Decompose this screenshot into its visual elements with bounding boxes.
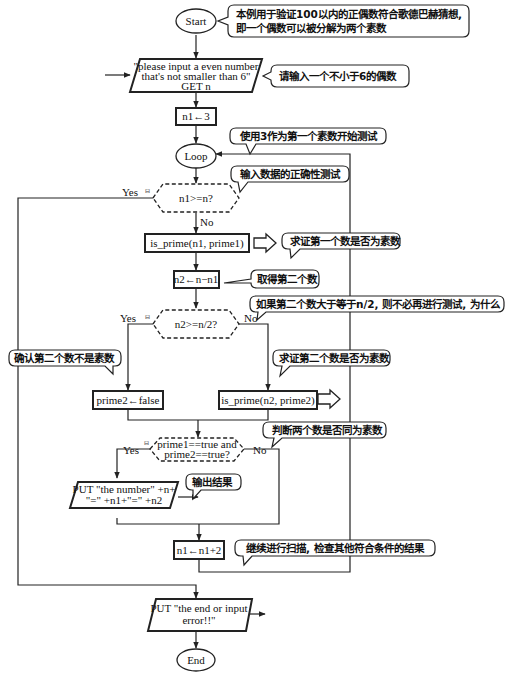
collapse-icon[interactable]: ⊟ bbox=[145, 187, 150, 194]
is-prime1-text: is_prime(n1, prime1) bbox=[150, 237, 244, 250]
comment-bubble-output: 输出结果 bbox=[186, 474, 241, 499]
decision-input-check[interactable]: n1>=n? bbox=[153, 184, 239, 212]
comment-text: 求证第二个数是否为素数 bbox=[279, 352, 390, 364]
hollow-arrow-icon bbox=[254, 234, 276, 252]
comment-text: 求证第一个数是否为素数 bbox=[290, 235, 401, 247]
init-text: n1←3 bbox=[182, 110, 210, 122]
is-prime1-process[interactable]: is_prime(n1, prime1) bbox=[145, 234, 249, 252]
is-prime2-text: is_prime(n2, prime2) bbox=[221, 394, 315, 407]
comment-bubble-prime1: 求证第一个数是否为素数 bbox=[282, 233, 401, 258]
comment-bubble-validate: 输入数据的正确性测试 bbox=[231, 166, 349, 192]
yes-label: Yes bbox=[120, 312, 136, 324]
decision3-text-line2: prime2==true? bbox=[164, 448, 230, 460]
comment-bubble-second: 取得第二个数 bbox=[224, 270, 319, 288]
output-result-box[interactable]: PUT "the number" +n+ "=" +n1+"=" +n2 bbox=[70, 482, 178, 508]
init-process[interactable]: n1←3 bbox=[176, 108, 216, 125]
loop-terminal[interactable]: Loop bbox=[176, 144, 216, 168]
comment-bubble-purpose: 本例用于验证100以内的正偶数符合歌德巴赫猜想, 即一个偶数可以被分解为两个素数 bbox=[218, 5, 469, 37]
connector-no bbox=[239, 324, 268, 390]
comment-bubble-not-prime: 确认第二个数不是素数 bbox=[9, 350, 121, 374]
comment-text: 即一个偶数可以被分解为两个素数 bbox=[236, 22, 387, 34]
comment-text: 输出结果 bbox=[192, 476, 233, 488]
flowchart-canvas: Start "please input a even number that's… bbox=[0, 0, 518, 680]
start-terminal[interactable]: Start bbox=[176, 9, 216, 33]
no-label: No bbox=[244, 312, 258, 324]
end-output-box[interactable]: PUT "the end or input error!!" bbox=[148, 599, 252, 631]
connector-merge bbox=[117, 518, 279, 524]
comment-bubble-both: 判断两个数是否同为素数 bbox=[263, 422, 386, 447]
prime2-false-process[interactable]: prime2←false bbox=[93, 391, 163, 409]
comment-text: 请输入一个不小于6的偶数 bbox=[279, 70, 397, 82]
end-output-line2: error!!" bbox=[182, 614, 215, 626]
comment-bubble-half-check: 如果第二个数大于等于n/2, 则不必再进行测试, 为什么 bbox=[250, 296, 504, 320]
no-label: No bbox=[253, 444, 267, 456]
comment-text: 判断两个数是否同为素数 bbox=[272, 424, 383, 436]
comment-text: 确认第二个数不是素数 bbox=[14, 352, 115, 364]
decision-both-prime[interactable]: prime1==true and prime2==true? bbox=[150, 438, 244, 461]
hollow-arrow-icon bbox=[318, 390, 340, 408]
comment-bubble-continue: 继续进行扫描, 检查其他符合条件的结果 bbox=[235, 540, 435, 565]
end-terminal[interactable]: End bbox=[177, 649, 215, 671]
output-text-line2: "=" +n1+"=" +n2 bbox=[86, 494, 162, 506]
no-label: No bbox=[200, 216, 214, 228]
loop-label: Loop bbox=[184, 150, 208, 162]
end-label: End bbox=[187, 654, 205, 666]
increment-text: n1←n1+2 bbox=[177, 544, 222, 556]
comment-bubble-start-prime: 使用3作为第一个素数开始测试 bbox=[230, 128, 386, 154]
end-output-line1: PUT "the end or input bbox=[150, 602, 247, 614]
decision-n2-half[interactable]: n2>=n/2? bbox=[153, 310, 239, 338]
connector-yes bbox=[128, 324, 153, 390]
comment-text: 本例用于验证100以内的正偶数符合歌德巴赫猜想, bbox=[236, 8, 462, 20]
yes-label: Yes bbox=[122, 186, 138, 198]
is-prime2-process[interactable]: is_prime(n2, prime2) bbox=[219, 391, 317, 409]
n2-assign-text: n2←n−n1 bbox=[174, 273, 219, 285]
yes-label: Yes bbox=[123, 444, 139, 456]
collapse-icon[interactable]: ⊟ bbox=[144, 439, 149, 446]
start-label: Start bbox=[186, 15, 207, 27]
comment-text: 输入数据的正确性测试 bbox=[240, 168, 341, 180]
comment-bubble-prime2: 求证第二个数是否为素数 bbox=[273, 350, 390, 376]
n2-assign-process[interactable]: n2←n−n1 bbox=[174, 271, 219, 288]
connector-no bbox=[244, 449, 279, 520]
decision1-text: n1>=n? bbox=[179, 192, 213, 204]
comment-bubble-input: 请输入一个不小于6的偶数 bbox=[263, 65, 409, 87]
increment-process[interactable]: n1←n1+2 bbox=[174, 541, 224, 559]
decision2-text: n2>=n/2? bbox=[175, 318, 217, 330]
comment-text: 如果第二个数大于等于n/2, 则不必再进行测试, 为什么 bbox=[256, 298, 501, 310]
input-box[interactable]: "please input a even number that's not s… bbox=[130, 59, 262, 92]
comment-text: 取得第二个数 bbox=[257, 273, 318, 285]
connector-merge bbox=[128, 409, 268, 420]
comment-text: 使用3作为第一个素数开始测试 bbox=[239, 130, 378, 142]
prime2-false-text: prime2←false bbox=[97, 394, 160, 406]
comment-text: 继续进行扫描, 检查其他符合条件的结果 bbox=[246, 542, 425, 554]
input-text-line3: GET n bbox=[181, 80, 211, 92]
collapse-icon[interactable]: ⊟ bbox=[145, 313, 150, 320]
